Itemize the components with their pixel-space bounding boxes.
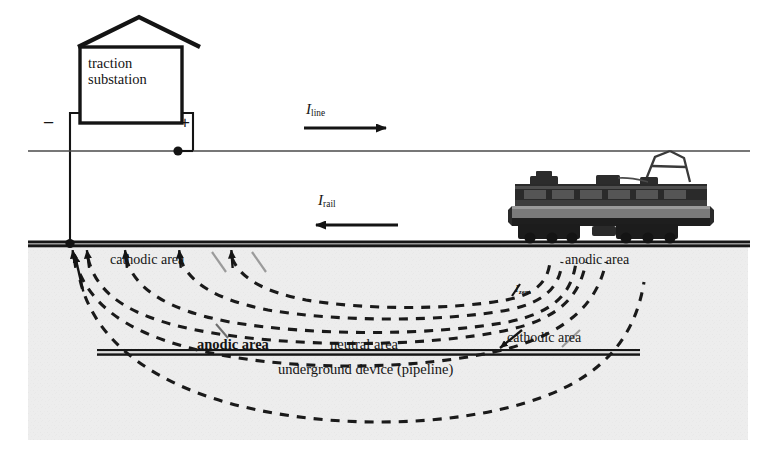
pipeline-caption: underground device (pipeline): [278, 362, 453, 378]
positive-terminal-label: +: [180, 114, 190, 132]
diagram-canvas: traction substation − + Iline Irail Izem…: [0, 0, 778, 460]
pipeline-cathodic-area-label: cathodic area: [507, 330, 581, 345]
rail-negative-junction-dot: [65, 239, 74, 248]
pipeline-neutral-area-label: neutral area: [330, 337, 398, 353]
substation-label-line1: traction: [88, 56, 147, 72]
rail-anodic-area-label: anodic area: [565, 252, 629, 267]
negative-terminal-label: −: [43, 113, 54, 134]
substation-label: traction substation: [88, 56, 147, 87]
earth-current-label: Izem: [515, 283, 531, 295]
electric-locomotive: [508, 151, 714, 244]
substation-label-line2: substation: [88, 72, 147, 88]
roof-equipment: [530, 171, 658, 185]
rail-current-label: Irail: [318, 192, 336, 209]
earth-current-subscript: zem: [519, 288, 531, 295]
rail: [28, 239, 750, 248]
substation-wiring: [70, 113, 193, 244]
rail-cathodic-area-label: cathodic area: [110, 252, 184, 267]
pipeline-anodic-area-label: anodic area: [197, 337, 269, 353]
line-current-subscript: line: [311, 108, 325, 118]
rail-current-subscript: rail: [323, 199, 336, 209]
loco-bogies: [518, 224, 678, 239]
overhead-contact-line: [28, 146, 750, 155]
line-current-label: Iline: [306, 101, 325, 118]
